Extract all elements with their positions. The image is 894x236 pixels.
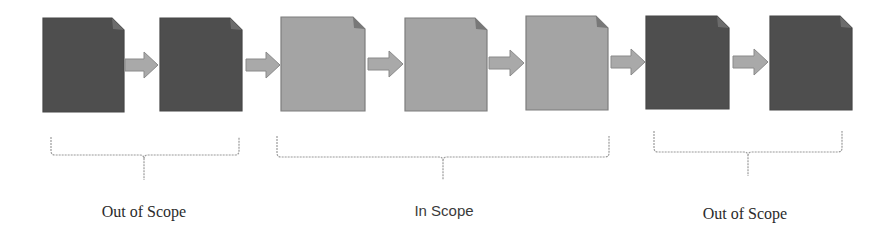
document-icon-1-out-scope — [43, 18, 124, 112]
scope-brace-2 — [277, 136, 609, 180]
document-icon-6-out-scope — [646, 16, 729, 109]
flow-arrow-icon-1 — [125, 52, 158, 78]
flow-arrow-icon-3 — [368, 51, 403, 77]
scope-diagram: Out of Scope In Scope Out of Scope — [0, 0, 894, 236]
diagram-canvas — [0, 0, 894, 236]
document-icon-5-in-scope — [526, 16, 608, 110]
document-icon-4-in-scope — [405, 18, 487, 111]
label-in-scope: In Scope — [414, 202, 473, 219]
label-out-of-scope-left: Out of Scope — [102, 203, 186, 221]
label-out-of-scope-right: Out of Scope — [703, 205, 787, 223]
scope-brace-3 — [654, 131, 842, 176]
document-icon-3-in-scope — [281, 17, 365, 111]
flow-arrow-icon-4 — [489, 50, 524, 76]
flow-arrow-icon-5 — [611, 49, 645, 75]
document-icon-7-out-scope — [770, 16, 852, 110]
flow-arrow-icon-6 — [733, 49, 768, 75]
flow-arrow-icon-2 — [246, 52, 280, 78]
scope-brace-1 — [51, 137, 239, 180]
document-icon-2-out-scope — [160, 18, 242, 111]
